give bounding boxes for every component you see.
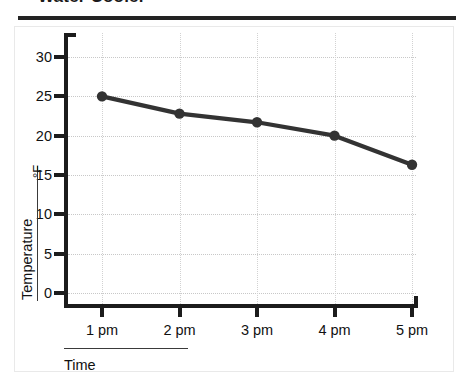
x-axis-title-rule <box>64 348 188 349</box>
x-axis-end-cap <box>414 296 418 308</box>
y-axis-tick-label: 30 <box>0 49 52 65</box>
gridline-horizontal <box>68 214 416 215</box>
gridline-vertical <box>257 33 258 304</box>
y-axis-tick-label: 20 <box>0 128 52 144</box>
chart-title: Water Cooler <box>38 0 146 7</box>
x-axis-tick <box>410 306 414 317</box>
x-axis-tick-label: 4 pm <box>318 322 350 338</box>
x-axis-title: Time <box>64 357 96 373</box>
gridline-horizontal <box>68 136 416 137</box>
gridline-vertical <box>180 33 181 304</box>
x-axis-tick-label: 5 pm <box>396 322 428 338</box>
y-axis-tick <box>54 291 65 295</box>
gridline-vertical <box>335 33 336 304</box>
x-axis-line <box>64 304 418 308</box>
x-axis-tick-label: 1 pm <box>86 322 118 338</box>
gridline-horizontal <box>68 96 416 97</box>
x-axis-tick <box>178 306 182 317</box>
y-axis-tick <box>54 94 65 98</box>
x-axis-tick-label: 3 pm <box>241 322 273 338</box>
title-divider <box>18 16 456 20</box>
gridline-vertical <box>412 33 413 304</box>
chart-screenshot: Water Cooler 051015202530 1 pm2 pm3 pm4 … <box>0 0 468 383</box>
y-axis-tick <box>54 55 65 59</box>
y-axis-line <box>64 33 68 308</box>
y-axis-tick <box>54 212 65 216</box>
y-axis-tick <box>54 134 65 138</box>
gridline-horizontal <box>68 57 416 58</box>
y-axis-title: Temperature <box>19 219 35 300</box>
figure-frame <box>14 26 454 372</box>
gridline-horizontal <box>68 175 416 176</box>
gridline-vertical <box>102 33 103 304</box>
x-axis-tick-label: 2 pm <box>163 322 195 338</box>
gridline-horizontal <box>68 254 416 255</box>
gridline-horizontal <box>68 293 416 294</box>
x-axis-tick <box>255 306 259 317</box>
y-axis-tick <box>54 173 65 177</box>
x-axis-tick <box>100 306 104 317</box>
y-axis-top-cap <box>64 33 76 37</box>
y-tick-label-host: 051015202530 <box>0 0 52 383</box>
y-axis-title-rule <box>37 166 38 301</box>
y-axis-unit-label: °F <box>30 165 45 178</box>
x-axis-tick <box>333 306 337 317</box>
y-axis-tick <box>54 252 65 256</box>
y-axis-tick-label: 25 <box>0 88 52 104</box>
